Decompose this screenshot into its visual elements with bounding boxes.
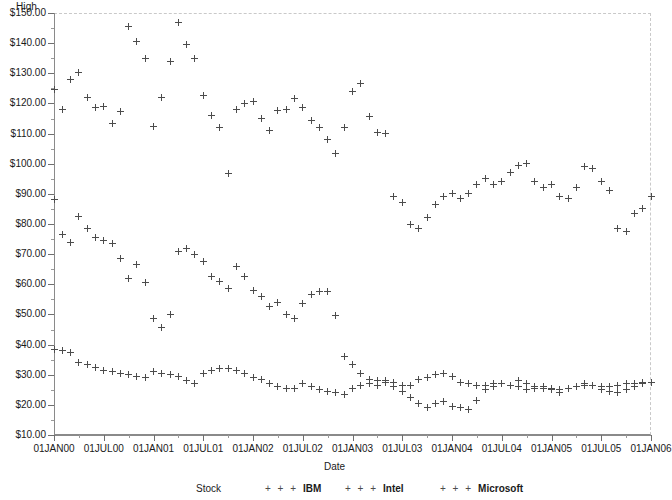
y-axis-label: $90.00 [0,188,46,199]
y-axis-tick [48,43,54,44]
x-axis-minor-tick [328,435,329,438]
x-axis-tick [651,435,652,441]
legend-entry-microsoft[interactable]: + + + Microsoft [440,483,523,494]
y-axis-minor-tick [51,239,54,240]
x-axis-minor-tick [79,435,80,438]
y-axis-tick [48,375,54,376]
y-axis-minor-tick [51,269,54,270]
x-axis-tick [54,435,55,441]
legend-marker-ibm: + + + [265,484,298,494]
x-axis-label: 01JAN03 [332,443,373,454]
x-axis-tick [502,435,503,441]
x-axis-minor-tick [527,435,528,438]
y-axis-minor-tick [51,360,54,361]
legend-entry-intel[interactable]: + + + Intel [345,483,404,494]
y-axis-tick [48,254,54,255]
y-axis-tick [48,284,54,285]
x-axis-minor-tick [576,435,577,438]
x-axis-label: 01JUL02 [283,443,323,454]
legend-title: Stock [196,483,221,494]
y-axis-label: $40.00 [0,339,46,350]
x-axis-tick [104,435,105,441]
y-axis-tick [48,103,54,104]
plot-area [54,13,651,435]
x-axis-tick [353,435,354,441]
x-axis-label: 01JAN01 [133,443,174,454]
y-axis-tick [48,194,54,195]
x-axis-label: 01JUL04 [482,443,522,454]
y-axis-tick [48,314,54,315]
y-axis-label: $130.00 [0,67,46,78]
y-axis-tick [48,13,54,14]
x-axis-minor-tick [427,435,428,438]
x-axis-label: 01JAN04 [431,443,472,454]
y-axis-label: $110.00 [0,128,46,139]
x-axis-minor-tick [178,435,179,438]
y-axis-tick [48,224,54,225]
y-axis-label: $30.00 [0,369,46,380]
x-axis-label: 01JAN02 [232,443,273,454]
y-axis-minor-tick [51,58,54,59]
y-axis-minor-tick [51,149,54,150]
x-axis-title: Date [0,461,669,472]
y-axis-label: $20.00 [0,399,46,410]
x-axis-label: 01JAN00 [33,443,74,454]
y-axis-label: $70.00 [0,248,46,259]
y-axis-minor-tick [51,179,54,180]
y-axis-tick [48,345,54,346]
x-axis-label: 01JUL01 [183,443,223,454]
legend-label-intel: Intel [383,483,404,494]
y-axis-label: $150.00 [0,7,46,18]
y-axis-tick [48,164,54,165]
x-axis-tick [601,435,602,441]
x-axis-label: 01JAN05 [531,443,572,454]
x-axis-minor-tick [477,435,478,438]
y-axis-label: $100.00 [0,158,46,169]
y-axis-minor-tick [51,330,54,331]
y-axis-line [54,13,55,435]
x-axis-minor-tick [129,435,130,438]
y-axis-tick [48,73,54,74]
y-axis-label: $60.00 [0,278,46,289]
x-axis-label: 01JUL03 [382,443,422,454]
x-axis-tick [452,435,453,441]
y-axis-minor-tick [51,209,54,210]
x-axis-minor-tick [377,435,378,438]
y-axis-label: $10.00 [0,429,46,440]
x-axis-tick [552,435,553,441]
x-axis-tick [253,435,254,441]
x-axis-label: 01JUL00 [84,443,124,454]
x-axis-label: 01JAN06 [630,443,671,454]
y-axis-label: $140.00 [0,37,46,48]
y-axis-tick [48,405,54,406]
chart-legend: Stock + + + IBM + + + Intel + + + Micros… [0,480,669,500]
legend-marker-microsoft: + + + [440,484,473,494]
legend-marker-intel: + + + [345,484,378,494]
y-axis-minor-tick [51,119,54,120]
y-axis-label: $50.00 [0,308,46,319]
x-axis-tick [154,435,155,441]
y-axis-label: $80.00 [0,218,46,229]
x-axis-minor-tick [228,435,229,438]
x-axis-minor-tick [278,435,279,438]
y-axis-label: $120.00 [0,97,46,108]
legend-label-microsoft: Microsoft [478,483,523,494]
x-axis-minor-tick [626,435,627,438]
y-axis-minor-tick [51,28,54,29]
x-axis-label: 01JUL05 [581,443,621,454]
y-axis-minor-tick [51,299,54,300]
legend-entry-ibm[interactable]: + + + IBM [265,483,321,494]
y-axis-minor-tick [51,390,54,391]
y-axis-minor-tick [51,420,54,421]
y-axis-minor-tick [51,88,54,89]
x-axis-tick [303,435,304,441]
x-axis-tick [203,435,204,441]
legend-label-ibm: IBM [303,483,321,494]
x-axis-tick [402,435,403,441]
y-axis-tick [48,134,54,135]
